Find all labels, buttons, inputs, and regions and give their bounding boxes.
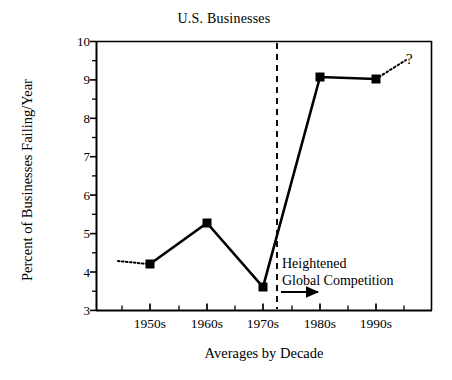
x-major-ticks: [150, 304, 376, 311]
series-markers: [146, 73, 381, 292]
y-minor-ticks: [92, 61, 96, 292]
data-point-1960s: [203, 219, 212, 228]
data-point-1980s: [316, 73, 325, 82]
plot-axes: [96, 41, 432, 311]
data-point-1970s: [259, 283, 268, 292]
series-line-business-failures: [150, 77, 376, 287]
data-point-1990s: [372, 75, 381, 84]
pre-1950s-dotted-trend-line: [118, 261, 148, 264]
data-point-1950s: [146, 260, 155, 269]
post-1990s-dotted-trend-line: [379, 60, 406, 77]
chart-figure: U.S. Businesses Percent of Businesses Fa…: [0, 0, 452, 380]
chart-plot-svg: [0, 0, 452, 380]
